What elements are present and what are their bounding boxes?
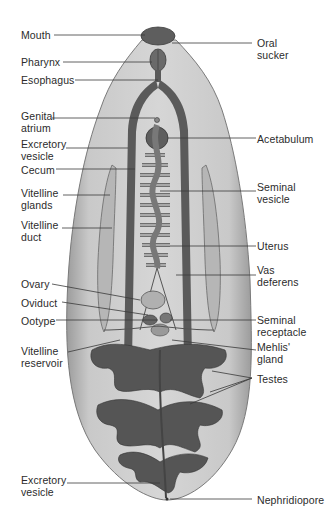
label-uterus: Uterus (257, 240, 289, 252)
label-vitelline-glands: Vitelline glands (21, 187, 58, 211)
label-mehlis-gland: Mehlis' gland (257, 341, 290, 365)
genital-atrium (155, 118, 160, 123)
label-nephridiopore: Nephridiopore (257, 494, 324, 506)
label-acetabulum: Acetabulum (257, 133, 313, 145)
label-pharynx: Pharynx (21, 56, 60, 68)
label-oral-sucker: Oral sucker (257, 37, 289, 61)
label-excretory-vesicle-upper: Excretory vesicle (21, 138, 66, 162)
ovary (141, 291, 165, 309)
label-esophagus: Esophagus (21, 74, 74, 86)
label-seminal-receptacle: Seminal receptacle (257, 314, 306, 338)
label-seminal-vesicle: Seminal vesicle (257, 181, 296, 205)
oral-sucker (141, 27, 175, 45)
label-vitelline-duct: Vitelline duct (21, 219, 58, 243)
label-cecum: Cecum (21, 164, 55, 176)
label-ootype: Ootype (21, 315, 55, 327)
label-genital-atrium: Genital atrium (21, 110, 55, 134)
label-ovary: Ovary (21, 278, 50, 290)
label-excretory-vesicle-lower: Excretory vesicle (21, 474, 66, 498)
label-vitelline-reservoir: Vitelline reservoir (21, 345, 63, 369)
label-vas-deferens: Vas deferens (257, 264, 299, 288)
label-mouth: Mouth (21, 29, 51, 41)
nephridiopore (166, 498, 169, 501)
label-testes: Testes (257, 373, 288, 385)
label-oviduct: Oviduct (21, 297, 57, 309)
seminal-receptacle (160, 313, 172, 323)
